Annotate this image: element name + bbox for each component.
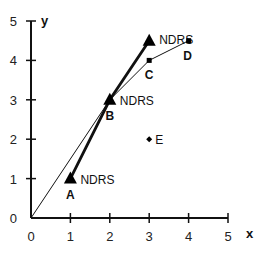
ndrs-annotation: NDRS (80, 173, 114, 187)
y-tick-label: 5 (10, 14, 17, 29)
y-tick-label: 1 (10, 172, 17, 187)
x-tick-label: 0 (27, 229, 34, 244)
triangle-marker (143, 34, 156, 46)
triangle-marker (64, 172, 77, 184)
square-marker (147, 58, 152, 63)
x-tick-label: 2 (106, 229, 113, 244)
y-axis-label: y (41, 13, 49, 28)
y-tick-label: 0 (10, 211, 17, 226)
thin-square-line (31, 41, 189, 218)
y-tick-label: 4 (10, 53, 17, 68)
point-label: C (145, 68, 154, 82)
axes: 012345012345xy (10, 13, 254, 244)
square-marker (186, 38, 191, 43)
point-label: B (105, 109, 114, 123)
x-tick-label: 5 (224, 229, 231, 244)
point-label: A (66, 188, 75, 202)
point-label: E (155, 133, 163, 147)
x-tick-label: 1 (67, 229, 74, 244)
series-lines (31, 41, 189, 218)
chart: 012345012345xy NDRSANDRSBNDRSCDE (0, 0, 263, 257)
y-tick-label: 2 (10, 132, 17, 147)
ndrs-annotation: NDRS (120, 94, 154, 108)
y-tick-label: 3 (10, 93, 17, 108)
x-axis-label: x (246, 226, 254, 241)
series-markers: NDRSANDRSBNDRSCDE (64, 33, 193, 202)
x-tick-label: 3 (146, 229, 153, 244)
x-tick-label: 4 (185, 229, 192, 244)
diamond-marker (146, 136, 152, 142)
point-label: D (183, 49, 192, 63)
